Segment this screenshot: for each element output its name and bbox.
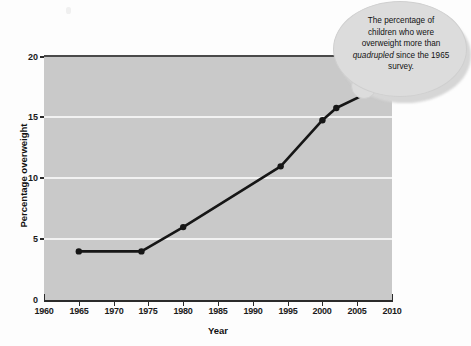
- x-axis-title: Year: [44, 325, 392, 336]
- callout-line-3: overweight more than: [362, 39, 441, 48]
- y-tick-label-0: 0: [20, 295, 38, 305]
- x-tick-label-2010: 2010: [382, 306, 401, 316]
- x-tick-label-1960: 1960: [34, 306, 53, 316]
- y-tick-mark-5: [40, 238, 44, 240]
- x-tick-label-1980: 1980: [173, 306, 192, 316]
- scan-artifact: [66, 7, 71, 14]
- callout-line-4-rest: since the 1965: [394, 51, 450, 60]
- x-tick-label-1995: 1995: [278, 306, 297, 316]
- y-tick-mark-20: [40, 56, 44, 58]
- x-tick-1960: [44, 294, 45, 302]
- x-tick-label-1965: 1965: [69, 306, 88, 316]
- gridline-5: [44, 238, 392, 240]
- callout-emphasis-word: quadrupled: [353, 51, 394, 60]
- y-tick-mark-10: [40, 177, 44, 179]
- callout-annotation: The percentage of children who were over…: [333, 1, 471, 101]
- x-tick-label-1990: 1990: [243, 306, 262, 316]
- x-tick-label-2005: 2005: [347, 306, 366, 316]
- y-axis-title: Percentage overweight: [18, 96, 29, 256]
- gridline-15: [44, 116, 392, 118]
- callout-line-1: The percentage of: [368, 16, 434, 25]
- x-tick-label-1970: 1970: [104, 306, 123, 316]
- callout-line-2: children who were: [368, 28, 434, 37]
- x-tick-2010: [392, 294, 393, 302]
- x-tick-label-1975: 1975: [138, 306, 157, 316]
- gridline-10: [44, 177, 392, 179]
- x-tick-label-1985: 1985: [208, 306, 227, 316]
- x-tick-label-2000: 2000: [312, 306, 331, 316]
- y-tick-mark-15: [40, 116, 44, 118]
- chart-figure: 20 15 10 5 0 1960 1965 1970 1975 1980 19…: [0, 0, 471, 346]
- callout-line-5: survey.: [388, 62, 414, 71]
- y-tick-label-20: 20: [20, 52, 38, 62]
- callout-text: The percentage of children who were over…: [345, 15, 457, 73]
